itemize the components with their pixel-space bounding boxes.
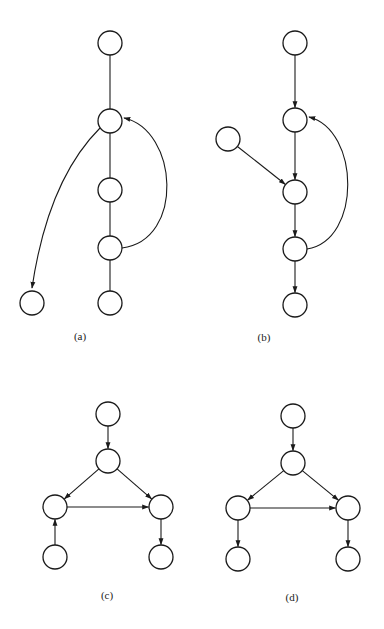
node-c6 [149,545,173,569]
node-d1 [281,404,305,428]
node-c1 [96,402,120,426]
graph-figure: (a) (b) (c) (d) [0,0,384,629]
edge-b5-to-b2 [307,117,348,249]
node-b1 [283,31,307,55]
node-c5 [43,545,67,569]
caption-a: (a) [74,330,86,342]
node-c3 [43,495,67,519]
graph-canvas [0,0,384,629]
caption-c: (c) [101,589,113,601]
edge-c2-to-c3 [64,469,98,499]
node-d6 [336,547,360,571]
node-a6 [20,291,44,315]
node-a5 [98,291,122,315]
node-c2 [96,449,120,473]
node-b5 [283,237,307,261]
node-b4 [283,180,307,204]
node-b6 [283,293,307,317]
edge-c2-to-c4 [117,469,151,499]
edge-a4-to-a2 [122,118,167,248]
node-a1 [98,31,122,55]
nodes-layer [20,31,360,571]
node-a4 [98,236,122,260]
node-d3 [226,496,250,520]
node-a3 [98,178,122,202]
node-b3 [216,127,240,151]
edge-a2-to-a6 [32,128,100,288]
node-d4 [336,496,360,520]
caption-b: (b) [258,331,271,343]
edge-b3-to-b4 [237,146,285,184]
node-c4 [149,495,173,519]
edge-d2-to-d4 [302,471,338,500]
node-d5 [226,547,250,571]
node-d2 [281,451,305,475]
caption-d: (d) [286,591,299,603]
node-a2 [98,109,122,133]
node-b2 [283,108,307,132]
edge-d2-to-d3 [248,471,284,500]
